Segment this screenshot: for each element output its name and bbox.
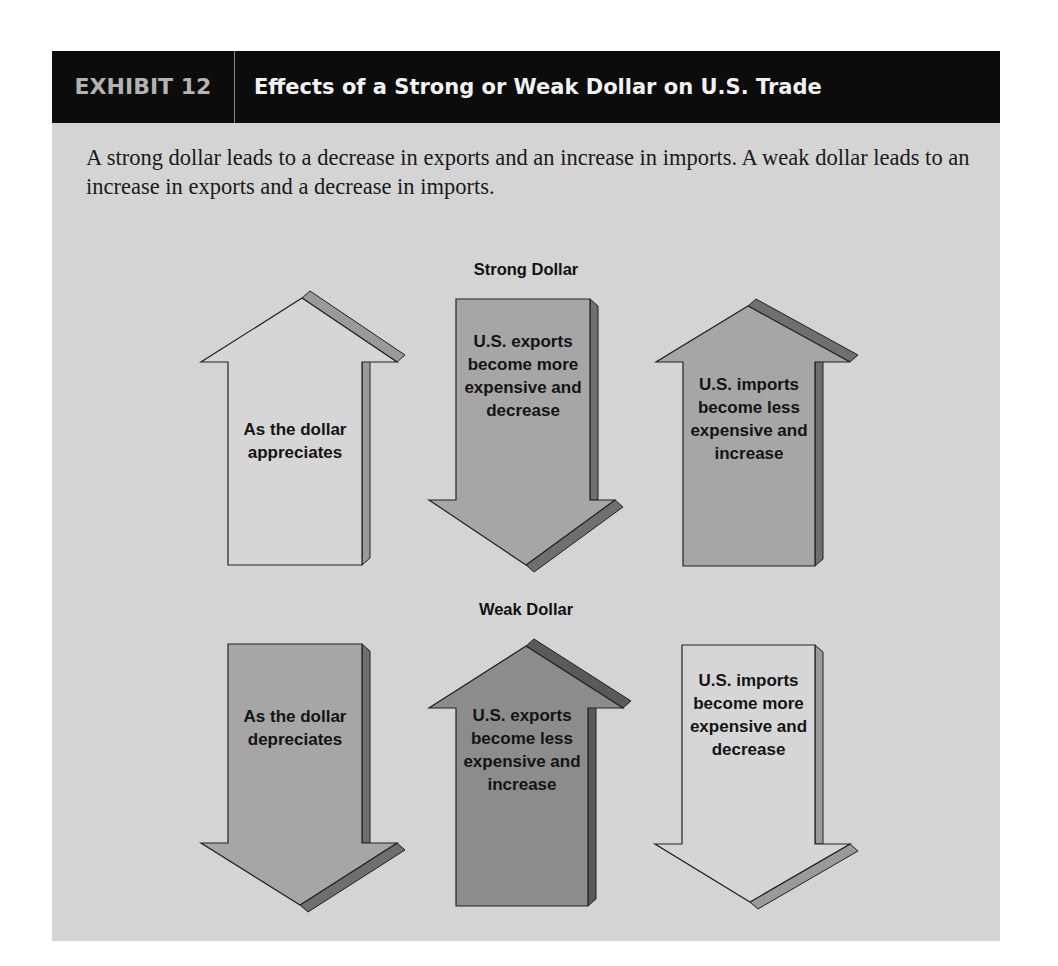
- section-label-strong-dollar: Strong Dollar: [376, 260, 676, 279]
- arrow-label: U.S. exports become less expensive and i…: [456, 704, 588, 796]
- dollar-trade-diagram: [0, 0, 1058, 966]
- arrow-down-dollar-depreciates: [201, 644, 405, 912]
- arrow-label: U.S. imports become more expensive and d…: [682, 669, 815, 761]
- arrow-label: As the dollar appreciates: [228, 418, 362, 464]
- arrow-label: U.S. exports become more expensive and d…: [456, 330, 590, 422]
- section-label-weak-dollar: Weak Dollar: [376, 600, 676, 619]
- arrow-label: As the dollar depreciates: [228, 705, 362, 751]
- arrow-label: U.S. imports become less expensive and i…: [683, 373, 815, 465]
